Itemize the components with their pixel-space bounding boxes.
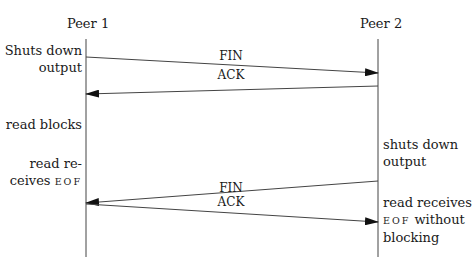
ack-label-2: ACK [218, 195, 245, 209]
fin-label-2: FIN [219, 181, 243, 195]
note-line: shuts down [383, 136, 458, 153]
peer1-note-shutdown: Shuts down output [5, 42, 82, 76]
eof-smallcaps: EOF [55, 176, 82, 187]
peer1-note-read-eof: read re- ceives EOF [10, 155, 82, 190]
eof-smallcaps: EOF [383, 215, 410, 226]
fin-label-1: FIN [219, 49, 243, 63]
ack-arrow-1 [86, 86, 378, 94]
ack-label-1: ACK [218, 68, 245, 82]
peer1-note-read-blocks: read blocks [6, 116, 82, 133]
note-line: read blocks [6, 116, 82, 133]
note-line: output [5, 59, 82, 76]
note-line: EOF without [383, 211, 472, 229]
note-line: read receives [383, 194, 472, 211]
peer2-note-read-eof: read receives EOF without blocking [383, 194, 472, 246]
note-line: read re- [10, 155, 82, 172]
note-line: output [383, 153, 458, 170]
peer1-header: Peer 1 [67, 15, 109, 32]
note-text: ceives [10, 173, 51, 188]
note-line: ceives EOF [10, 172, 82, 190]
peer2-header: Peer 2 [360, 15, 402, 32]
note-text: without [414, 212, 464, 227]
note-line: Shuts down [5, 42, 82, 59]
peer2-note-shutdown: shuts down output [383, 136, 458, 170]
note-line: blocking [383, 229, 472, 246]
